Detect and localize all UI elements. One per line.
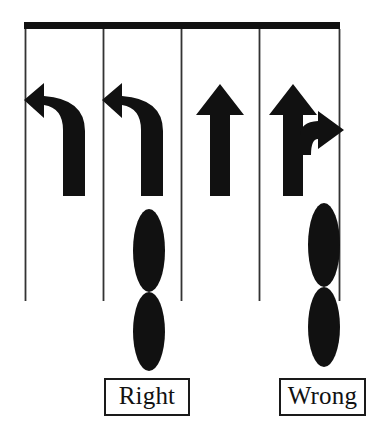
loop-detector-marker-correct <box>133 209 165 371</box>
straight-and-right-turn-arrow <box>269 84 344 196</box>
label-wrong: Wrong <box>279 378 366 416</box>
label-right: Right <box>104 378 190 416</box>
left-turn-arrow <box>24 83 85 196</box>
left-turn-arrow <box>102 83 163 196</box>
marker-lower-lobe <box>133 292 165 371</box>
figure-canvas: Right Wrong <box>0 0 381 431</box>
label-wrong-text: Wrong <box>288 383 357 411</box>
marker-lower-lobe <box>308 287 340 367</box>
right-turn-branch <box>300 111 344 155</box>
lane-diagram <box>0 0 381 431</box>
straight-arrow <box>196 84 244 196</box>
marker-upper-lobe <box>308 203 340 287</box>
loop-detector-marker-incorrect <box>308 203 340 367</box>
label-right-text: Right <box>119 383 176 411</box>
stop-bar <box>24 22 340 29</box>
marker-upper-lobe <box>133 209 165 292</box>
